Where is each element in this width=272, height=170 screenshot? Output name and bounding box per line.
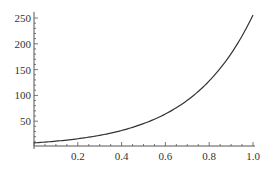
y-tick-label: 150 xyxy=(15,64,32,76)
x-axis-ticks: 0.20.40.60.81.0 xyxy=(34,142,260,162)
x-tick-label: 0.8 xyxy=(202,150,216,162)
line-chart: 50100150200250 0.20.40.60.81.0 xyxy=(0,0,272,170)
axes xyxy=(34,12,255,149)
y-tick-label: 250 xyxy=(15,12,32,24)
y-tick-label: 50 xyxy=(20,115,32,127)
y-tick-label: 200 xyxy=(15,38,32,50)
y-tick-label: 100 xyxy=(15,89,32,101)
x-tick-label: 0.6 xyxy=(159,150,173,162)
x-tick-label: 1.0 xyxy=(246,150,260,162)
data-curve xyxy=(34,15,253,143)
x-tick-label: 0.4 xyxy=(115,150,129,162)
x-tick-label: 0.2 xyxy=(71,150,85,162)
